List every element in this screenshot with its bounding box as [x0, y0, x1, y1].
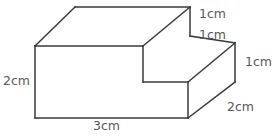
edge-top-right-diagonal [143, 7, 190, 46]
edge-top-left-diagonal [35, 7, 75, 46]
dimension-label-bottom-width: 3cm [93, 119, 120, 133]
edge-step-tread-diagonal [188, 43, 235, 82]
step-solid-drawing [0, 0, 278, 137]
solid-edges [35, 7, 235, 118]
dimension-label-right-height: 1cm [245, 55, 272, 69]
dimension-label-left-height: 2cm [3, 74, 30, 88]
dimension-label-top-step-depth: 1cm [199, 28, 226, 42]
geometry-figure: 1cm 1cm 1cm 2cm 2cm 3cm [0, 0, 278, 137]
dimension-label-right-depth: 2cm [227, 100, 254, 114]
dimension-label-top-step-height: 1cm [199, 7, 226, 21]
